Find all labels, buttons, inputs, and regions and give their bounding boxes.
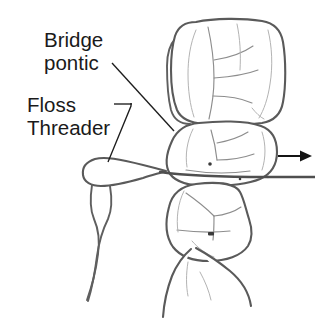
dental-floss-threader-diagram: Bridge pontic Floss Threader xyxy=(0,0,315,329)
pontic-pit-mark xyxy=(208,162,212,166)
pontic-pit-mark-secondary xyxy=(239,178,242,181)
lower-molar-restoration-mark xyxy=(208,232,214,235)
upper-molar-crown xyxy=(167,19,285,125)
diagram-canvas: Bridge pontic Floss Threader xyxy=(0,0,315,329)
label-bridge-pontic-line1: Bridge xyxy=(44,28,103,51)
label-floss-threader-line2: Threader xyxy=(27,116,110,139)
label-bridge-pontic-line2: pontic xyxy=(44,51,99,74)
lower-molar-tooth xyxy=(167,183,252,261)
label-floss-threader-line1: Floss xyxy=(27,93,76,116)
lower-molar-outline xyxy=(167,183,252,261)
